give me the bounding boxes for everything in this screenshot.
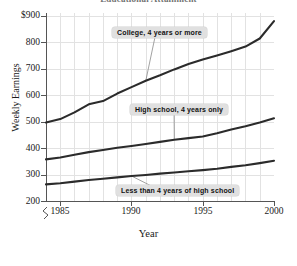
annotation-less-than-high-school: Less than 4 years of high school xyxy=(116,185,239,196)
leader-line-college xyxy=(146,38,155,81)
annotation-high-school: High school, 4 years only xyxy=(130,104,228,115)
series-line-less-than-high-school xyxy=(46,161,274,185)
chart-figure: Educational Attainment $900 800 700 600 … xyxy=(0,0,297,266)
series-lines-layer xyxy=(0,0,297,266)
annotation-college: College, 4 years or more xyxy=(112,27,207,38)
series-line-high-school xyxy=(46,118,274,159)
